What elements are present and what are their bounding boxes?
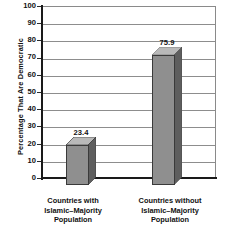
y-tick-label-70: 70 bbox=[12, 53, 36, 61]
gridline-90 bbox=[43, 24, 215, 25]
gridline-80 bbox=[43, 41, 215, 42]
y-tick-label-60: 60 bbox=[12, 71, 36, 79]
bar-front-face-2 bbox=[152, 55, 175, 185]
bar-countries-without-islamic-majority bbox=[152, 47, 182, 185]
y-tick-label-10: 10 bbox=[12, 157, 36, 165]
y-axis-line bbox=[41, 5, 43, 180]
gridline-60 bbox=[43, 76, 215, 77]
gridline-40 bbox=[43, 110, 215, 111]
y-tick-label-30: 30 bbox=[12, 122, 36, 130]
x-category-label-2: Countries without Islamic–Majority Popul… bbox=[118, 196, 222, 225]
y-tick-label-80: 80 bbox=[12, 36, 36, 44]
y-tick-label-40: 40 bbox=[12, 105, 36, 113]
bar-value-label-1: 23.4 bbox=[60, 128, 102, 137]
bar-value-label-2: 75.9 bbox=[146, 38, 188, 47]
bar-front-face-1 bbox=[66, 145, 89, 185]
y-tick-label-0: 0 bbox=[12, 174, 36, 182]
x-category-label-1: Countries with Islamic–Majority Populati… bbox=[26, 196, 120, 225]
bar-chart: Percentage That Are Democratic 100 90 80… bbox=[0, 0, 226, 236]
bar-countries-with-islamic-majority bbox=[66, 137, 96, 185]
gridline-70 bbox=[43, 59, 215, 60]
y-tick-label-50: 50 bbox=[12, 88, 36, 96]
y-tick-label-100: 100 bbox=[12, 2, 36, 10]
y-tick-label-90: 90 bbox=[12, 19, 36, 27]
y-tick-label-20: 20 bbox=[12, 140, 36, 148]
gridline-50 bbox=[43, 93, 215, 94]
